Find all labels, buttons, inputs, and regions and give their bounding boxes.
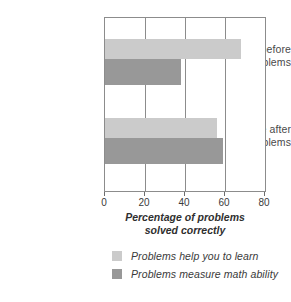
x-tick-label-80: 80 — [249, 197, 279, 208]
plot-inner — [105, 18, 265, 191]
x-tick-label-0: 0 — [89, 197, 119, 208]
x-tick-label-40: 40 — [169, 197, 199, 208]
bar-group1-series1 — [105, 138, 223, 164]
x-axis-title-line2: solved correctly — [104, 224, 266, 237]
legend-label-0: Problems help you to learn — [131, 250, 259, 262]
legend-label-1: Problems measure math ability — [131, 268, 278, 280]
x-tick-40 — [184, 192, 185, 196]
legend-item-1: Problems measure math ability — [112, 265, 291, 283]
legend: Problems help you to learn Problems meas… — [112, 247, 291, 283]
plot-area — [104, 17, 266, 192]
x-tick-60 — [224, 192, 225, 196]
legend-swatch-icon-1 — [112, 269, 122, 279]
bar-chart: List race before solving problems List r… — [0, 0, 291, 302]
x-axis-title-line1: Percentage of problems — [104, 211, 266, 224]
bar-group0-series0 — [105, 39, 241, 59]
x-axis-title: Percentage of problems solved correctly — [104, 211, 266, 237]
legend-swatch-icon-0 — [112, 251, 122, 261]
bar-group1-series0 — [105, 118, 217, 138]
x-tick-label-60: 60 — [209, 197, 239, 208]
x-tick-label-20: 20 — [129, 197, 159, 208]
bar-group0-series1 — [105, 59, 181, 85]
x-tick-80 — [264, 192, 265, 196]
x-tick-20 — [144, 192, 145, 196]
x-tick-0 — [104, 192, 105, 196]
legend-item-0: Problems help you to learn — [112, 247, 291, 265]
